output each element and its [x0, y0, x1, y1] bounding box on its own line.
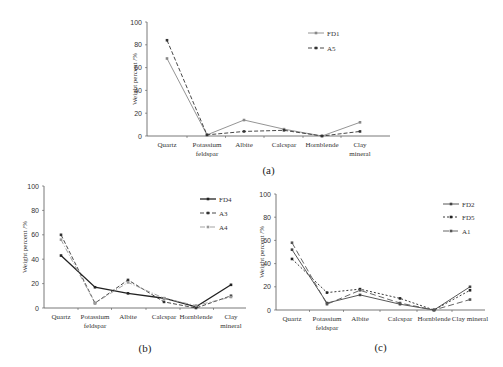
data-marker: [230, 296, 233, 299]
x-category-label: Clay mineral: [452, 315, 488, 323]
y-tick-label: 100: [27, 183, 39, 190]
legend-marker: [207, 212, 210, 215]
chart-caption: (a): [262, 164, 275, 177]
legend-marker: [450, 203, 453, 206]
y-tick-label: 80: [263, 214, 271, 221]
series-line-FD4: [61, 256, 231, 307]
x-category-label: Hornblende: [305, 141, 338, 149]
data-marker: [359, 121, 362, 124]
data-marker: [283, 129, 286, 132]
legend-label-FD2: FD2: [462, 201, 475, 209]
data-marker: [60, 234, 63, 237]
legend-marker: [450, 216, 453, 219]
y-tick-label: 80: [134, 41, 142, 48]
legend-marker: [315, 32, 318, 35]
legend-label-A4: A4: [219, 224, 228, 232]
x-category-label: feldspar: [84, 322, 107, 330]
x-category-label: mineral: [220, 322, 241, 330]
chart-caption: (c): [374, 341, 387, 354]
chart-panel-a: 020406080100Weight percent /%QuartzPotas…: [130, 19, 390, 178]
x-category-label: Clay: [353, 141, 367, 149]
data-marker: [163, 297, 166, 300]
data-marker: [291, 241, 294, 244]
x-category-label: Potassium: [81, 313, 110, 321]
y-tick-label: 0: [267, 307, 271, 314]
data-marker: [291, 248, 294, 251]
data-marker: [469, 298, 472, 301]
legend-marker: [315, 47, 318, 50]
data-marker: [469, 286, 472, 289]
data-marker: [60, 254, 63, 257]
y-tick-label: 20: [134, 110, 142, 117]
x-category-label: Calcspar: [152, 313, 177, 321]
data-marker: [195, 304, 198, 307]
x-category-label: Calcspar: [388, 315, 413, 323]
x-category-label: Calcspar: [272, 141, 297, 149]
data-marker: [326, 303, 329, 306]
x-category-label: Potassium: [313, 315, 342, 323]
x-category-label: Albite: [119, 313, 137, 321]
y-tick-label: 80: [31, 207, 39, 214]
data-marker: [399, 302, 402, 305]
data-marker: [291, 258, 294, 261]
data-marker: [195, 307, 198, 310]
y-tick-label: 0: [138, 133, 142, 140]
x-category-label: feldspar: [316, 324, 339, 332]
chart-caption: (b): [139, 342, 152, 355]
legend-marker: [450, 230, 453, 233]
x-category-label: Quartz: [51, 313, 70, 321]
y-axis-label: Weight percent /%: [131, 53, 139, 105]
data-marker: [94, 286, 97, 289]
data-marker: [60, 238, 63, 241]
data-marker: [321, 135, 324, 138]
data-marker: [166, 39, 169, 42]
series-line-FD1: [167, 58, 360, 136]
x-category-label: Hornblende: [179, 313, 212, 321]
data-marker: [359, 130, 362, 133]
data-marker: [433, 309, 436, 312]
y-axis-label: Weight percent /%: [258, 226, 266, 278]
legend-label-FD4: FD4: [219, 196, 232, 204]
x-category-label: Albite: [351, 315, 369, 323]
data-marker: [166, 57, 169, 60]
legend-marker: [207, 198, 210, 201]
legend-label-FD1: FD1: [327, 30, 340, 38]
y-tick-label: 20: [31, 280, 39, 287]
data-marker: [243, 130, 246, 133]
x-category-label: Albite: [235, 141, 253, 149]
data-marker: [230, 284, 233, 287]
x-category-label: Potassium: [193, 141, 222, 149]
series-line-FD2: [292, 250, 470, 310]
data-marker: [206, 134, 209, 137]
series-line-FD5: [292, 259, 470, 310]
x-category-label: mineral: [349, 150, 370, 158]
x-category-label: Clay: [224, 313, 238, 321]
figure-canvas: 020406080100Weight percent /%QuartzPotas…: [0, 0, 503, 367]
data-marker: [243, 119, 246, 122]
y-tick-label: 100: [259, 191, 271, 198]
legend-label-A5: A5: [327, 45, 336, 53]
data-marker: [163, 301, 166, 304]
x-category-label: Quartz: [282, 315, 301, 323]
y-tick-label: 60: [31, 231, 39, 238]
x-category-label: Hornblende: [417, 315, 450, 323]
legend-label-A1: A1: [462, 228, 471, 236]
data-marker: [94, 302, 97, 305]
data-marker: [399, 297, 402, 300]
x-category-label: feldspar: [196, 150, 219, 158]
y-tick-label: 40: [31, 256, 39, 263]
legend-label-FD5: FD5: [462, 214, 475, 222]
chart-panel-b: 020406080100Weight percent /%QuartzPotas…: [21, 183, 246, 356]
legend-marker: [207, 226, 210, 229]
data-marker: [127, 292, 130, 295]
data-marker: [359, 294, 362, 297]
y-tick-label: 20: [263, 283, 271, 290]
data-marker: [127, 279, 130, 282]
data-marker: [127, 281, 130, 284]
data-marker: [359, 289, 362, 292]
series-line-A3: [61, 235, 231, 308]
y-axis-label: Weight percent /%: [21, 221, 29, 273]
y-tick-label: 100: [130, 19, 142, 26]
series-line-A5: [167, 40, 360, 136]
legend-label-A3: A3: [219, 210, 228, 218]
